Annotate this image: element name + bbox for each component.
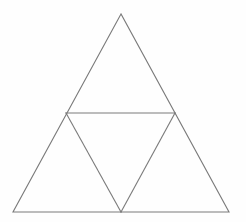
inner-left-diagonal-line xyxy=(66,113,121,212)
triangle-figure-svg xyxy=(0,0,246,222)
region-top-triangle xyxy=(66,14,175,113)
region-center-inverted-triangle xyxy=(66,113,175,212)
inner-right-diagonal-line xyxy=(121,113,175,212)
region-bottom-left-triangle xyxy=(13,113,121,212)
region-bottom-right-triangle xyxy=(121,113,229,212)
triangle-figure-canvas xyxy=(0,0,246,222)
